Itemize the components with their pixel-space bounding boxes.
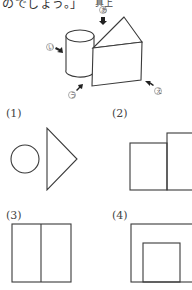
problem-4-figure (0, 0, 192, 290)
inner-rectangle (143, 243, 180, 282)
outer-square (131, 224, 192, 282)
